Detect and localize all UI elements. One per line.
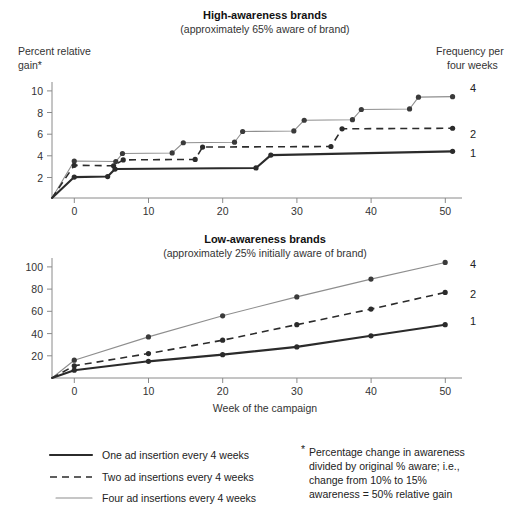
low-series-four-ads-markers <box>72 260 448 363</box>
footnote-line-1: Percentage change in awareness <box>309 446 465 458</box>
data-point <box>181 140 186 145</box>
data-point <box>220 313 225 318</box>
panel-low-axes: 20 40 60 80 100 0 10 20 30 40 50 <box>25 258 462 397</box>
low-series-two-ads-markers <box>72 290 448 369</box>
data-point <box>350 117 355 122</box>
data-point <box>368 307 373 312</box>
advertising-frequency-figure: High-awareness brands (approximately 65%… <box>0 0 520 507</box>
data-point <box>328 144 333 149</box>
high-ylabel-4: 4 <box>37 150 43 162</box>
high-xlabel-0: 0 <box>71 205 77 217</box>
y-axis-caption-line2: gain* <box>18 59 42 71</box>
low-xlabel-10: 10 <box>143 385 155 397</box>
panel-high-series <box>52 94 455 198</box>
high-series-one-ad-line <box>52 151 453 198</box>
data-point <box>121 157 126 162</box>
data-point <box>72 174 77 179</box>
high-ylabel-2: 2 <box>37 172 43 184</box>
data-point <box>450 126 455 131</box>
data-point <box>407 106 412 111</box>
high-endlabel-4: 4 <box>470 82 476 94</box>
data-point <box>146 351 151 356</box>
data-point <box>72 163 77 168</box>
x-axis-title: Week of the campaign <box>213 402 317 414</box>
panel-low-subtitle: (approximately 25% initially aware of br… <box>163 247 367 259</box>
panel-high-awareness: High-awareness brands (approximately 65%… <box>18 9 504 217</box>
high-ylabel-6: 6 <box>37 128 43 140</box>
data-point <box>291 128 296 133</box>
low-ylabel-80: 80 <box>31 283 43 295</box>
legend-label-four-ads: Four ad insertions every 4 weeks <box>102 492 256 504</box>
data-point <box>72 368 77 373</box>
data-point <box>240 129 245 134</box>
data-point <box>416 95 421 100</box>
low-xlabel-0: 0 <box>71 385 77 397</box>
data-point <box>146 359 151 364</box>
frequency-caption-line2: four weeks <box>447 59 498 71</box>
low-endlabel-2: 2 <box>470 288 476 300</box>
footnote-line-3: change from 10% to 15% <box>309 474 427 486</box>
y-axis-caption-line1: Percent relative <box>18 45 91 57</box>
legend-label-one-ad: One ad insertion every 4 weeks <box>102 449 249 461</box>
panel-low-title: Low-awareness brands <box>204 233 326 245</box>
data-point <box>170 150 175 155</box>
data-point <box>120 151 125 156</box>
data-point <box>443 290 448 295</box>
data-point <box>294 344 299 349</box>
panel-high-subtitle: (approximately 65% aware of brand) <box>180 23 349 35</box>
footnote-marker: * <box>301 443 305 455</box>
low-xlabel-30: 30 <box>291 385 303 397</box>
high-series-two-ads-line <box>52 128 453 198</box>
high-xlabel-40: 40 <box>365 205 377 217</box>
data-point <box>294 322 299 327</box>
low-xlabel-40: 40 <box>365 385 377 397</box>
low-endlabel-1: 1 <box>470 315 476 327</box>
high-xlabel-20: 20 <box>217 205 229 217</box>
low-xlabel-20: 20 <box>217 385 229 397</box>
data-point <box>368 277 373 282</box>
data-point <box>368 333 373 338</box>
data-point <box>72 358 77 363</box>
frequency-caption-line1: Frequency per <box>436 45 504 57</box>
data-point <box>232 140 237 145</box>
data-point <box>268 152 273 157</box>
data-point <box>200 144 205 149</box>
panel-high-axes: 2 4 6 8 10 0 10 20 30 40 50 <box>31 82 462 217</box>
high-endlabel-2: 2 <box>470 128 476 140</box>
footnote: * Percentage change in awareness divided… <box>301 443 465 500</box>
low-endlabel-4: 4 <box>470 258 476 270</box>
panel-high-title: High-awareness brands <box>203 9 327 21</box>
footnote-line-2: divided by original % aware; i.e., <box>309 460 460 472</box>
data-point <box>294 294 299 299</box>
data-point <box>359 107 364 112</box>
data-point <box>339 126 344 131</box>
high-ylabel-8: 8 <box>37 107 43 119</box>
low-ylabel-20: 20 <box>31 350 43 362</box>
data-point <box>450 94 455 99</box>
data-point <box>443 260 448 265</box>
data-point <box>220 338 225 343</box>
data-point <box>112 166 117 171</box>
high-xlabel-10: 10 <box>143 205 155 217</box>
data-point <box>450 149 455 154</box>
data-point <box>72 363 77 368</box>
low-xlabel-50: 50 <box>439 385 451 397</box>
data-point <box>193 157 198 162</box>
figure-svg: High-awareness brands (approximately 65%… <box>0 0 520 507</box>
data-point <box>105 174 110 179</box>
high-xlabel-30: 30 <box>291 205 303 217</box>
high-xlabel-50: 50 <box>439 205 451 217</box>
panel-low-series <box>52 260 448 378</box>
low-ylabel-40: 40 <box>31 328 43 340</box>
low-series-one-ad-line <box>52 325 445 378</box>
footnote-line-4: awareness = 50% relative gain <box>309 488 452 500</box>
panel-low-awareness: Low-awareness brands (approximately 25% … <box>25 233 476 397</box>
data-point <box>146 334 151 339</box>
legend: One ad insertion every 4 weeks Two ad in… <box>50 449 256 504</box>
high-ylabel-10: 10 <box>31 85 43 97</box>
high-endlabel-1: 1 <box>470 147 476 159</box>
data-point <box>302 118 307 123</box>
data-point <box>443 322 448 327</box>
low-ylabel-60: 60 <box>31 305 43 317</box>
legend-label-two-ads: Two ad insertions every 4 weeks <box>102 471 254 483</box>
